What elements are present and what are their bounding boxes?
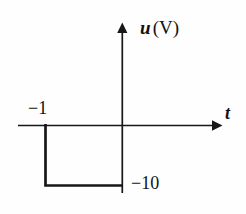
y-value-label-minus-ten: −10: [131, 174, 159, 192]
x-tick-label-minus-one: −1: [28, 99, 47, 117]
waveform-figure: u(V) t −1 −10: [0, 0, 246, 214]
u-axis-label: u(V): [140, 18, 179, 37]
t-axis-arrowhead: [212, 120, 223, 130]
u-axis-unit: (V): [153, 17, 179, 38]
t-axis-label: t: [225, 104, 230, 122]
u-axis-symbol: u: [140, 17, 151, 38]
u-axis-arrowhead: [117, 23, 127, 34]
pulse-waveform-trace: [46, 124, 123, 186]
